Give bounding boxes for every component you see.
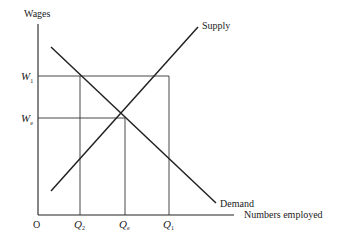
demand-label: Demand [220, 198, 254, 209]
w1-label: W1 [21, 70, 33, 84]
supply-label: Supply [202, 20, 230, 31]
q1-label: Q1 [163, 218, 174, 231]
x-axis-label: Numbers employed [244, 209, 323, 220]
labour-market-diagram: Wages Numbers employed O Supply Demand W… [0, 0, 350, 242]
origin-label: O [33, 219, 40, 230]
demand-curve [51, 47, 216, 203]
qe-label: Qe [119, 218, 130, 231]
q2-label: Q2 [74, 218, 85, 231]
we-label: We [21, 112, 33, 126]
supply-curve [51, 27, 198, 191]
y-axis-label: Wages [24, 8, 51, 19]
